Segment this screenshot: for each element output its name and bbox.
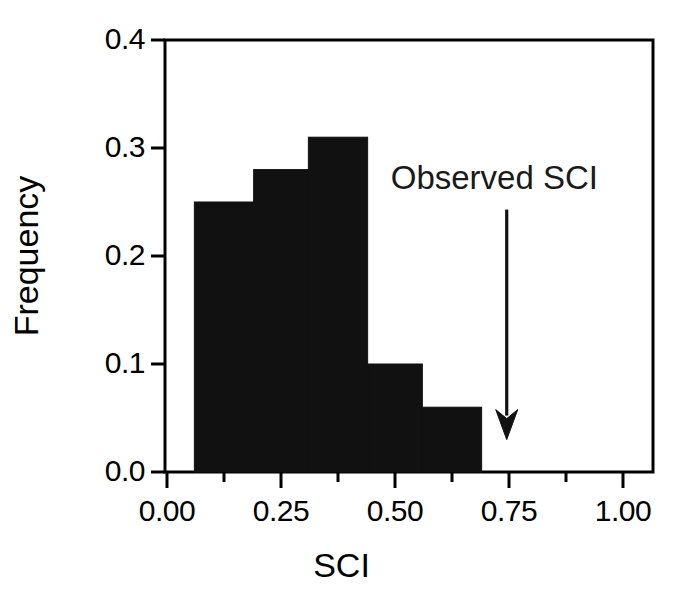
- histogram-bar: [368, 364, 423, 472]
- histogram-figure: Frequency 0.000.250.500.751.00 0.00.10.2…: [0, 0, 683, 608]
- observed-sci-label: Observed SCI: [391, 159, 598, 197]
- observed-sci-arrow: [496, 210, 518, 440]
- histogram-bar: [308, 137, 367, 472]
- y-axis-ticks: [151, 40, 165, 472]
- x-tick-label: 0.75: [467, 494, 551, 528]
- x-axis-title: SCI: [0, 546, 683, 585]
- x-tick-label: 0.50: [353, 494, 437, 528]
- histogram-bar: [194, 202, 253, 472]
- x-tick-label: 1.00: [581, 494, 665, 528]
- y-tick-label: 0.2: [85, 238, 145, 272]
- x-tick-label: 0.00: [125, 494, 209, 528]
- y-axis-title: Frequency: [7, 176, 45, 337]
- y-tick-label: 0.3: [85, 130, 145, 164]
- histogram-bar: [254, 170, 309, 472]
- histogram-bar: [422, 407, 481, 472]
- y-tick-label: 0.4: [85, 22, 145, 56]
- y-tick-label: 0.1: [85, 346, 145, 380]
- y-tick-label: 0.0: [85, 454, 145, 488]
- x-axis-ticks: [167, 472, 623, 488]
- x-tick-label: 0.25: [239, 494, 323, 528]
